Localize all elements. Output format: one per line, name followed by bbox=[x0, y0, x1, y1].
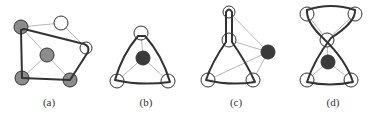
panel-d: (d) bbox=[300, 6, 362, 109]
panel-label: (c) bbox=[230, 96, 243, 109]
dark-node bbox=[321, 55, 335, 69]
thick-cycle-path bbox=[307, 6, 355, 85]
dark-node bbox=[261, 45, 275, 59]
panel-label: (a) bbox=[43, 96, 56, 109]
figure-canvas: (a)(b)(c)(d) bbox=[0, 0, 378, 119]
thick-cycle-path bbox=[21, 29, 89, 80]
grey-node bbox=[40, 48, 54, 62]
dark-node bbox=[136, 51, 150, 65]
panel-b: (b) bbox=[110, 26, 175, 109]
panel-label: (d) bbox=[327, 96, 340, 109]
white-node bbox=[223, 6, 235, 18]
panel-a: (a) bbox=[14, 16, 92, 109]
panel-c: (c) bbox=[201, 6, 275, 109]
panel-label: (b) bbox=[140, 96, 153, 109]
white-node bbox=[54, 16, 68, 30]
